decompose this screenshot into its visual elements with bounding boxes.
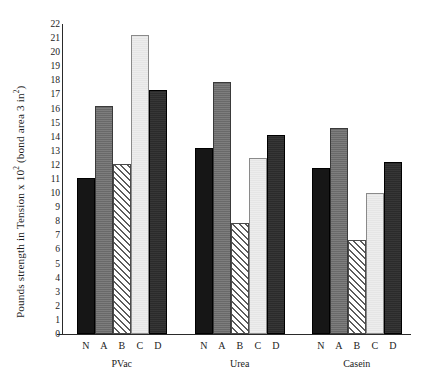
bar-urea-b: [231, 223, 249, 334]
bar-casein-a: [330, 128, 348, 334]
bar-pvac-d: [149, 90, 167, 334]
bar-urea-a: [213, 82, 231, 334]
bar-pvac-b: [113, 164, 131, 335]
x-axis-tick-urea-d: D: [267, 340, 285, 351]
bar-pvac-n: [77, 178, 95, 334]
bar-urea-d: [267, 135, 285, 334]
x-axis-tick-pvac-n: N: [77, 340, 95, 351]
x-axis-group-label-urea: Urea: [195, 358, 285, 369]
y-axis-tick-10: 10: [40, 188, 60, 198]
x-axis-tick-urea-n: N: [195, 340, 213, 351]
y-axis-tick-13: 13: [40, 146, 60, 156]
y-axis-tick-labels: 012345678910111213141516171819202122: [40, 0, 60, 388]
y-axis-tick-7: 7: [40, 230, 60, 240]
bar-group-casein: [312, 24, 402, 334]
bar-casein-b: [348, 240, 366, 334]
y-axis-title-text-3: ): [14, 86, 26, 90]
x-axis-tick-casein-b: B: [348, 340, 366, 351]
bar-casein-c: [366, 193, 384, 334]
bar-urea-n: [195, 148, 213, 334]
x-axis-tick-casein-a: A: [330, 340, 348, 351]
y-axis-tick-15: 15: [40, 118, 60, 128]
y-axis-tick-21: 21: [40, 33, 60, 43]
y-axis-title-text-1: Pounds strength in Tension x 10: [14, 170, 26, 318]
x-axis-group-label-casein: Casein: [312, 358, 402, 369]
bar-group-pvac: [77, 24, 167, 334]
bar-casein-n: [312, 168, 330, 334]
x-axis-tick-urea-a: A: [213, 340, 231, 351]
y-axis-tick-22: 22: [40, 19, 60, 29]
x-axis-labels: NABCDPVacNABCDUreaNABCDCasein: [63, 340, 411, 388]
y-axis-tick-2: 2: [40, 301, 60, 311]
x-axis-tick-pvac-a: A: [95, 340, 113, 351]
x-axis-tick-casein-n: N: [312, 340, 330, 351]
bar-pvac-c: [131, 35, 149, 334]
y-axis-tick-11: 11: [40, 174, 60, 184]
bar-casein-d: [384, 162, 402, 334]
y-axis-title-exp-1: 2: [12, 166, 21, 170]
bar-chart: Pounds strength in Tension x 102 (bond a…: [0, 0, 433, 388]
y-axis-tick-17: 17: [40, 89, 60, 99]
y-axis-title-text-2: (bond area 3 in: [14, 93, 26, 166]
y-axis-tick-12: 12: [40, 160, 60, 170]
x-axis-tick-urea-b: B: [231, 340, 249, 351]
plot-area: [63, 24, 411, 334]
x-axis-line: [57, 334, 411, 335]
y-axis-title: Pounds strength in Tension x 102 (bond a…: [14, 86, 26, 318]
x-axis-tick-casein-c: C: [366, 340, 384, 351]
y-axis-tick-1: 1: [40, 315, 60, 325]
y-axis-tick-8: 8: [40, 216, 60, 226]
y-axis-tick-18: 18: [40, 75, 60, 85]
bar-group-urea: [195, 24, 285, 334]
y-axis-tick-6: 6: [40, 244, 60, 254]
y-axis-tick-16: 16: [40, 104, 60, 114]
bar-pvac-a: [95, 106, 113, 334]
x-axis-tick-pvac-b: B: [113, 340, 131, 351]
x-axis-tick-casein-d: D: [384, 340, 402, 351]
y-axis-title-container: Pounds strength in Tension x 102 (bond a…: [0, 0, 30, 340]
x-axis-tick-pvac-c: C: [131, 340, 149, 351]
y-axis-tick-14: 14: [40, 132, 60, 142]
y-axis-tick-3: 3: [40, 287, 60, 297]
y-axis-tick-19: 19: [40, 61, 60, 71]
y-axis-tick-20: 20: [40, 47, 60, 57]
x-axis-group-label-pvac: PVac: [77, 358, 167, 369]
y-axis-tick-5: 5: [40, 259, 60, 269]
bar-urea-c: [249, 158, 267, 334]
y-axis-tick-9: 9: [40, 202, 60, 212]
y-axis-tick-4: 4: [40, 273, 60, 283]
x-axis-tick-urea-c: C: [249, 340, 267, 351]
x-axis-tick-pvac-d: D: [149, 340, 167, 351]
y-axis-title-exp-2: 2: [12, 90, 21, 94]
